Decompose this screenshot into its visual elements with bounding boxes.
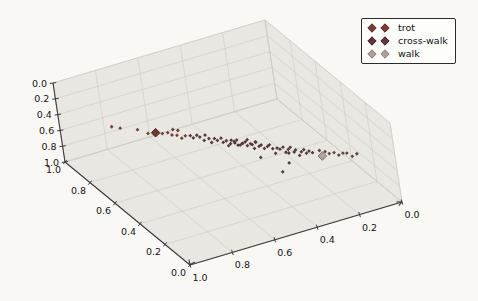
x-tick-label: 0.0 [404,209,419,220]
legend-item-walk: walk [367,48,448,59]
z-tick-label: 1.0 [44,157,59,168]
cross-walk-diamond-marker-icon [367,36,392,46]
y-tick-label: 0.4 [121,226,136,237]
z-tick-label: 0.0 [32,78,47,89]
legend-label: walk [398,48,420,59]
x-tick-label: 0.6 [277,247,292,258]
legend: trotcross-walkwalk [361,18,456,64]
z-tick-label: 0.2 [34,93,49,104]
y-tick-label: 0.2 [146,246,161,257]
legend-item-cross-walk: cross-walk [367,35,448,46]
legend-item-trot: trot [367,22,448,33]
z-tick-label: 0.8 [41,141,56,152]
trot-diamond-marker-icon [367,23,392,33]
legend-label: trot [398,22,415,33]
z-tick-label: 0.6 [39,125,54,136]
y-tick-label: 0.8 [71,185,86,196]
axes-panes [53,20,402,265]
x-tick-label: 1.0 [192,272,207,283]
walk-diamond-marker-icon [367,49,392,59]
figure-3d-scatter: 1.00.80.60.40.20.01.00.80.60.40.20.00.00… [0,0,478,301]
legend-label: cross-walk [398,35,448,46]
y-tick-label: 0.0 [171,267,186,278]
x-tick-label: 0.4 [320,234,335,245]
z-tick-label: 0.4 [37,109,52,120]
x-tick-label: 0.8 [235,259,250,270]
y-tick-label: 0.6 [96,205,111,216]
x-tick-label: 0.2 [362,222,377,233]
